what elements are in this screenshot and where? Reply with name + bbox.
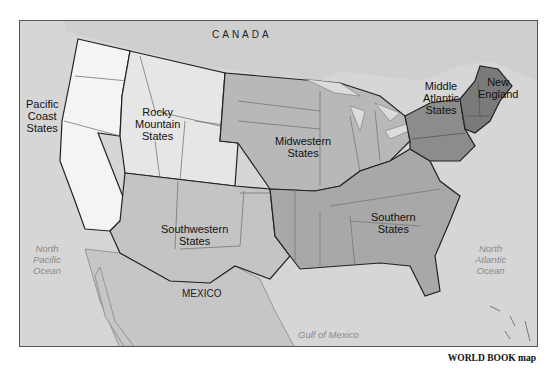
label-southern: Southern States <box>371 211 416 235</box>
label-canada: CANADA <box>212 29 272 40</box>
label-gulf-of-mexico: Gulf of Mexico <box>298 329 359 340</box>
map-credit: WORLD BOOK map <box>448 353 536 363</box>
label-middle-atlantic: Middle Atlantic States <box>423 80 459 116</box>
us-regions-map <box>20 21 538 347</box>
label-pacific-coast: Pacific Coast States <box>26 98 58 134</box>
label-rocky-mountain: Rocky Mountain States <box>135 106 180 142</box>
label-new-england: New England <box>478 76 518 100</box>
label-north-pacific-ocean: North Pacific Ocean <box>33 243 61 276</box>
label-mexico: MEXICO <box>182 288 221 299</box>
map-frame: CANADA MEXICO Pacific Coast States Rocky… <box>19 20 538 347</box>
label-north-atlantic-ocean: North Atlantic Ocean <box>475 243 506 276</box>
label-southwestern: Southwestern States <box>161 223 228 247</box>
label-midwestern: Midwestern States <box>275 135 331 159</box>
